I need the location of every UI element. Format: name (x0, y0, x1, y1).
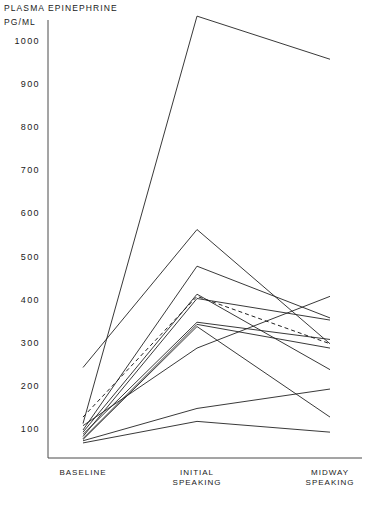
plasma-epinephrine-line-chart: PLASMA EPINEPHRINE PG/ML 100090080070060… (0, 0, 367, 505)
series-line-subject-4 (83, 294, 330, 432)
series-line-subject-7 (83, 324, 330, 438)
series-line-subject-5 (83, 299, 330, 437)
plot-area (0, 0, 367, 505)
series-line-subject-1 (83, 16, 330, 423)
series-line-subject-6 (83, 322, 330, 434)
series-line-subject-2 (83, 230, 330, 368)
series-line-subject-10 (83, 421, 330, 443)
series-line-subject-11 (83, 296, 330, 425)
series-line-subject-9 (83, 389, 330, 441)
